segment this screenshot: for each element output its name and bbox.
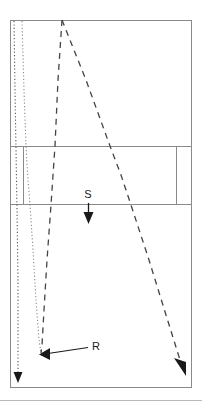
source-label: S	[84, 188, 91, 200]
ray-path-diagram: S R	[0, 0, 202, 405]
bottom-rule	[0, 400, 202, 401]
diagram-canvas: S R	[0, 0, 202, 405]
receiver-label: R	[92, 340, 100, 352]
